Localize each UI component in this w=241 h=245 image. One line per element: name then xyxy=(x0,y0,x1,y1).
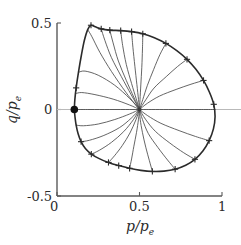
boundary-plus-marker-4 xyxy=(128,29,134,35)
y-axis-title: q/pe xyxy=(5,96,23,124)
boundary-plus-marker-15 xyxy=(116,162,122,168)
boundary-tick-markers-group xyxy=(73,22,217,174)
boundary-plus-marker-14 xyxy=(127,165,133,171)
boundary-plus-marker-10 xyxy=(206,138,212,144)
xtick-label-1: 1 xyxy=(218,200,226,213)
focus-point-dot xyxy=(138,108,142,112)
separatrix-boundary-group xyxy=(74,25,215,171)
y-axis-title-text: q/pe xyxy=(4,96,20,124)
separatrix-curve xyxy=(74,25,215,171)
boundary-plus-marker-13 xyxy=(149,168,155,174)
trajectory-ray-2 xyxy=(76,93,140,110)
trajectory-ray-22 xyxy=(76,110,139,126)
trajectory-ray-20 xyxy=(91,110,139,155)
trajectory-ray-9 xyxy=(140,34,143,110)
boundary-plus-marker-9 xyxy=(211,101,217,107)
plot-canvas xyxy=(0,0,241,245)
ytick-label-minus-0.5: -0.5 xyxy=(27,190,52,203)
boundary-plus-marker-18 xyxy=(78,139,84,145)
ytick-label-0: 0 xyxy=(44,103,52,116)
x-axis-title: p/pe xyxy=(126,219,154,237)
xtick-label-0: 0 xyxy=(50,200,58,213)
trajectory-ray-4 xyxy=(88,30,140,110)
trajectory-curves-group xyxy=(74,29,215,172)
boundary-plus-marker-19 xyxy=(73,85,79,91)
boundary-plus-marker-5 xyxy=(140,31,146,37)
xtick-label-0.5: 0.5 xyxy=(129,200,150,213)
phase-space-figure: 0.5 0 -0.5 0 0.5 1 q/pe p/pe xyxy=(0,0,241,245)
source-point-dot xyxy=(71,106,79,114)
boundary-plus-marker-2 xyxy=(107,27,113,33)
boundary-plus-marker-1 xyxy=(98,26,104,32)
ytick-label-0.5: 0.5 xyxy=(31,17,52,30)
boundary-plus-marker-3 xyxy=(118,28,124,34)
x-axis-title-text: p/pe xyxy=(126,218,154,234)
trajectory-ray-11 xyxy=(140,59,188,109)
trajectory-ray-15 xyxy=(140,110,195,160)
trajectory-ray-17 xyxy=(140,110,153,172)
